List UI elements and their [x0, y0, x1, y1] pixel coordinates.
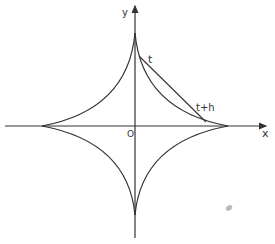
- point-t-label: t: [148, 53, 153, 66]
- origin-label: O: [127, 129, 134, 139]
- point-t-plus-h-label: t+h: [196, 102, 215, 113]
- smudge-mark: [225, 204, 234, 212]
- x-axis-label: x: [262, 127, 269, 140]
- astroid-diagram: y x O t t+h: [0, 0, 275, 244]
- y-axis-label: y: [122, 7, 128, 18]
